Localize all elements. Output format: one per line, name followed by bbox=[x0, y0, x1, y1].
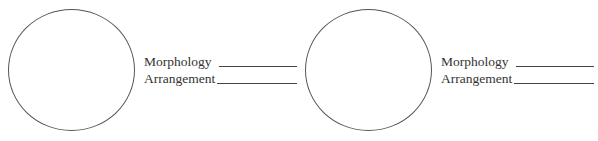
drawing-circle-1[interactable] bbox=[8, 9, 135, 131]
arrangement-field-2: Arrangement bbox=[441, 70, 512, 87]
arrangement-label: Arrangement bbox=[441, 70, 512, 87]
morphology-blank-2[interactable] bbox=[516, 66, 594, 67]
morphology-field-2: Morphology bbox=[441, 53, 509, 70]
morphology-label: Morphology bbox=[441, 53, 509, 70]
morphology-label: Morphology bbox=[144, 53, 212, 70]
arrangement-label: Arrangement bbox=[144, 70, 215, 87]
morphology-field-1: Morphology bbox=[144, 53, 212, 70]
arrangement-blank-1[interactable] bbox=[217, 83, 297, 84]
morphology-blank-1[interactable] bbox=[219, 66, 297, 67]
arrangement-field-1: Arrangement bbox=[144, 70, 215, 87]
arrangement-blank-2[interactable] bbox=[514, 83, 594, 84]
drawing-circle-2[interactable] bbox=[305, 9, 432, 131]
